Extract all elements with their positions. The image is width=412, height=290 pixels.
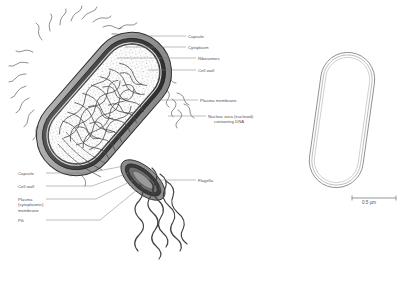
outline-cell bbox=[306, 49, 378, 191]
label-ribosomes: Ribosomes bbox=[198, 56, 220, 61]
label-capsule-left: Capsule bbox=[18, 171, 34, 176]
label-pili: Pili bbox=[18, 218, 24, 223]
label-cytoplasm: Cytoplasm bbox=[188, 45, 208, 50]
label-cell-wall-left: Cell wall bbox=[18, 184, 34, 189]
label-plasma-membrane: Plasma membrane bbox=[200, 98, 236, 103]
bacterial-cell-diagram bbox=[0, 0, 412, 290]
scale-bar-label: 0.5 µm bbox=[362, 200, 376, 205]
label-plasma-membrane-line3: membrane bbox=[18, 208, 39, 213]
label-nucleoid-line2: containing DNA bbox=[214, 119, 244, 124]
label-plasma-membrane-line1: Plasma bbox=[18, 197, 32, 202]
label-capsule-right: Capsule bbox=[188, 34, 204, 39]
label-plasma-membrane-line2: (cytoplasmic) bbox=[18, 202, 44, 207]
label-cell-wall-right: Cell wall bbox=[198, 68, 214, 73]
label-flagella: Flagella bbox=[198, 178, 213, 183]
capsule-layer bbox=[20, 16, 188, 192]
